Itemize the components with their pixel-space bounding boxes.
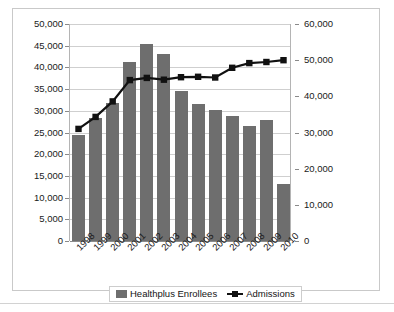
legend-item-admissions: Admissions: [227, 288, 295, 299]
admissions-marker-1999: [92, 114, 98, 120]
left-axis-tick-label: 5,000: [15, 214, 63, 224]
chart-plot-frame: 05,00010,00015,00020,00025,00030,00035,0…: [12, 8, 380, 291]
right-value-axis: 010,00020,00030,00040,00050,00060,000: [295, 9, 343, 241]
admissions-marker-2001: [127, 77, 133, 83]
chart-container: 05,00010,00015,00020,00025,00030,00035,0…: [0, 0, 394, 312]
right-axis-tick-label: 10,000: [295, 200, 348, 210]
category-axis: 1998199920002001200220032004200520062007…: [69, 243, 291, 277]
left-axis-tick-label: 0: [15, 236, 63, 246]
left-axis-tick-label: 30,000: [15, 106, 63, 116]
right-axis-tick-label: 30,000: [295, 128, 348, 138]
chart-legend: Healthplus Enrollees Admissions: [109, 286, 302, 302]
right-axis-tick-mark: [295, 133, 299, 134]
admissions-marker-2002: [144, 75, 150, 81]
left-axis-tick-label: 35,000: [15, 84, 63, 94]
legend-label-admissions: Admissions: [246, 288, 295, 299]
right-axis-tick-label: 40,000: [295, 91, 348, 101]
admissions-marker-2009: [263, 59, 269, 65]
admissions-line-path: [79, 60, 284, 129]
legend-label-enrollees: Healthplus Enrollees: [130, 288, 217, 299]
admissions-marker-2008: [246, 60, 252, 66]
right-axis-tick-label: 0: [295, 236, 348, 246]
admissions-marker-2004: [178, 74, 184, 80]
admissions-marker-2005: [195, 74, 201, 80]
admissions-marker-2007: [229, 65, 235, 71]
right-axis-tick-label: 20,000: [295, 164, 348, 174]
left-axis-tick-label: 25,000: [15, 128, 63, 138]
right-axis-tick-mark: [295, 60, 299, 61]
right-axis-tick-label: 60,000: [295, 19, 348, 29]
right-axis-tick-mark: [295, 169, 299, 170]
admissions-marker-2003: [161, 77, 167, 83]
right-axis-tick-mark: [295, 205, 299, 206]
left-axis-tick-label: 10,000: [15, 193, 63, 203]
left-axis-tick-label: 45,000: [15, 41, 63, 51]
left-axis-tick-label: 40,000: [15, 62, 63, 72]
admissions-marker-2000: [110, 98, 116, 104]
line-square-swatch-icon: [227, 290, 243, 298]
left-axis-tick-label: 15,000: [15, 171, 63, 181]
page-divider: [0, 303, 394, 304]
right-axis-tick-mark: [295, 96, 299, 97]
admissions-marker-2010: [280, 57, 286, 63]
admissions-marker-1998: [75, 126, 81, 132]
legend-item-enrollees: Healthplus Enrollees: [116, 288, 217, 299]
right-axis-tick-mark: [295, 24, 299, 25]
line-series-admissions: [70, 24, 292, 241]
left-value-axis: 05,00010,00015,00020,00025,00030,00035,0…: [15, 9, 63, 241]
plot-area: [69, 24, 291, 241]
bar-swatch-icon: [116, 290, 127, 298]
left-axis-tick-mark: [65, 241, 69, 242]
left-axis-tick-label: 50,000: [15, 19, 63, 29]
admissions-marker-2006: [212, 74, 218, 80]
right-axis-tick-label: 50,000: [295, 55, 348, 65]
left-axis-tick-label: 20,000: [15, 149, 63, 159]
